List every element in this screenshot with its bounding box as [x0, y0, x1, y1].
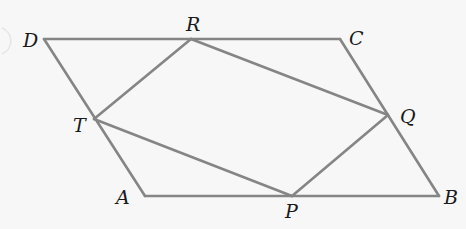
edge-QP: [292, 115, 388, 196]
outer-parallelogram: [44, 39, 439, 196]
label-C: C: [349, 27, 364, 49]
edge-TR: [94, 39, 191, 119]
edge-PT: [94, 119, 292, 196]
partial-circle-mark: [2, 28, 11, 54]
label-R: R: [185, 13, 200, 35]
label-P: P: [284, 200, 299, 222]
label-D: D: [22, 29, 38, 51]
inner-quadrilateral: [94, 39, 388, 196]
label-Q: Q: [400, 105, 416, 127]
edge-CB: [340, 39, 439, 196]
diagram-svg: D R C T Q A P B: [0, 0, 466, 229]
geometry-diagram: D R C T Q A P B: [0, 0, 466, 229]
vertex-labels: D R C T Q A P B: [22, 13, 458, 222]
label-B: B: [443, 186, 458, 208]
label-T: T: [73, 114, 87, 136]
label-A: A: [114, 186, 130, 208]
edge-RQ: [191, 39, 388, 115]
